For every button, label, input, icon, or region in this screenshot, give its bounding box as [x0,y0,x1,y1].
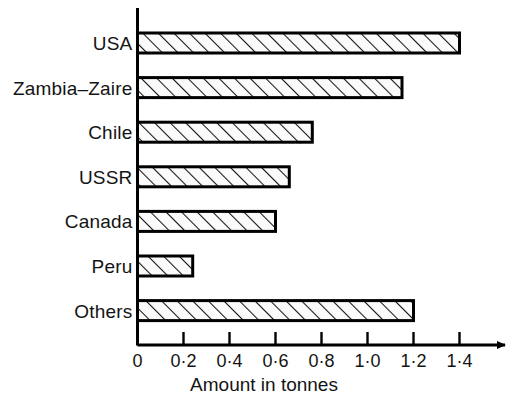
category-label-peru: Peru [0,257,133,276]
bar-fill [138,166,290,188]
bar-fill [138,300,414,322]
x-axis-title: Amount in tonnes [0,375,528,394]
bar-fill [138,255,193,277]
bar-fill [138,210,276,232]
bar-fill [138,32,460,54]
category-label-zambia-zaire: Zambia–Zaire [0,79,133,98]
category-label-others: Others [0,302,133,321]
category-label-usa: USA [0,34,133,53]
bar-fill [138,121,313,143]
category-label-ussr: USSR [0,168,133,187]
chart-canvas [0,0,528,404]
category-label-canada: Canada [0,212,133,231]
bar-series [138,32,460,322]
category-label-chile: Chile [0,123,133,142]
bar-chart: USAZambia–ZaireChileUSSRCanadaPeruOthers… [0,0,528,404]
x-tick-label: 1·4 [430,352,490,370]
bar-fill [138,77,403,99]
x-axis-ticks [184,332,460,345]
